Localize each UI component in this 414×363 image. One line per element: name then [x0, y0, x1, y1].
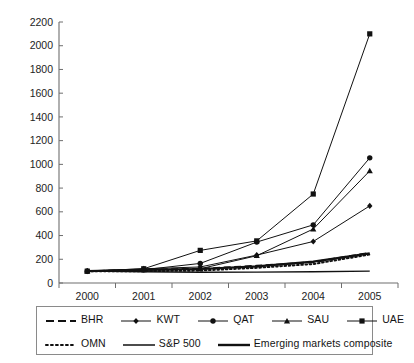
- legend-item-label: UAE: [382, 313, 404, 325]
- legend-item-label: OMN: [81, 337, 106, 349]
- y-axis-tick-label: 1000: [30, 158, 54, 170]
- legend-item-uae[interactable]: UAE: [345, 313, 404, 325]
- circle-marker: [198, 261, 203, 266]
- triangle-marker-line-swatch: [270, 315, 304, 327]
- square-marker: [311, 191, 316, 196]
- y-axis-tick-label: 1200: [30, 134, 54, 146]
- thin-solid-line-swatch: [122, 337, 156, 349]
- diamond-marker: [367, 203, 372, 209]
- legend-item-label: Emerging markets composite: [254, 337, 393, 349]
- y-axis-tick-label: 1400: [30, 111, 54, 123]
- y-axis-tick-label: 2000: [30, 39, 54, 51]
- dashed-line-swatch: [44, 315, 78, 327]
- series-line: [87, 171, 370, 271]
- legend-item-label: SAU: [307, 313, 329, 325]
- y-axis-tick-label: 1800: [30, 63, 54, 75]
- legend-item-emerging-markets-composite[interactable]: Emerging markets composite: [217, 337, 393, 349]
- x-axis-tick-label: 2003: [245, 290, 269, 302]
- diamond-marker: [311, 238, 316, 244]
- diamond-marker-line-swatch: [119, 315, 153, 327]
- legend-item-label: KWT: [156, 313, 180, 325]
- dashed-line-swatch: [44, 313, 78, 325]
- series-qat: [85, 155, 373, 274]
- x-axis-tick-label: 2004: [302, 290, 326, 302]
- legend-item-label: S&P 500: [159, 337, 201, 349]
- triangle-marker-line-swatch: [270, 313, 304, 325]
- square-marker: [198, 248, 203, 253]
- series-sau: [84, 168, 373, 274]
- series-layer: [84, 31, 373, 274]
- thin-solid-line-swatch: [122, 339, 156, 351]
- square-marker-line-swatch: [345, 315, 379, 327]
- legend-item-label: QAT: [233, 313, 254, 325]
- series-kwt: [85, 203, 373, 274]
- triangle-marker: [367, 168, 373, 174]
- thick-solid-line-swatch: [217, 339, 251, 351]
- diamond-marker-line-swatch: [119, 313, 153, 325]
- x-axis-tick-label: 2002: [189, 290, 213, 302]
- thick-solid-line-swatch: [217, 337, 251, 349]
- legend-item-sau[interactable]: SAU: [270, 313, 329, 325]
- y-axis: 0200400600800100012001400160018002000220…: [30, 16, 63, 289]
- legend-item-qat[interactable]: QAT: [196, 313, 254, 325]
- y-axis-tick-label: 2200: [30, 16, 54, 28]
- legend-item-label: BHR: [81, 313, 103, 325]
- circle-marker-line-swatch: [196, 313, 230, 325]
- circle-marker: [210, 318, 215, 323]
- legend-item-kwt[interactable]: KWT: [119, 313, 180, 325]
- dotted-line-swatch: [44, 339, 78, 351]
- square-marker: [254, 238, 259, 243]
- series-line: [87, 34, 370, 271]
- legend-item-omn[interactable]: OMN: [44, 337, 106, 349]
- y-axis-tick-label: 200: [35, 253, 53, 265]
- x-axis-tick-label: 2000: [76, 290, 100, 302]
- circle-marker: [367, 155, 372, 160]
- square-marker: [367, 31, 372, 36]
- y-axis-tick-label: 0: [47, 277, 53, 289]
- dotted-line-swatch: [44, 337, 78, 349]
- series-uae: [85, 31, 373, 273]
- legend-item-bhr[interactable]: BHR: [44, 313, 103, 325]
- y-axis-tick-label: 600: [35, 205, 53, 217]
- legend-row-primary: BHRKWTQATSAUUAE: [37, 307, 372, 331]
- x-axis: 200020012002200320042005: [59, 283, 398, 302]
- x-axis-tick-label: 2005: [358, 290, 382, 302]
- line-chart: 0200400600800100012001400160018002000220…: [0, 0, 414, 363]
- circle-marker-line-swatch: [196, 315, 230, 327]
- diamond-marker: [134, 318, 139, 324]
- square-marker-line-swatch: [345, 313, 379, 325]
- legend-row-secondary: OMNS&P 500Emerging markets composite: [37, 331, 372, 355]
- x-axis-tick-label: 2001: [132, 290, 156, 302]
- y-axis-tick-label: 800: [35, 182, 53, 194]
- legend: BHRKWTQATSAUUAE OMNS&P 500Emerging marke…: [36, 306, 373, 355]
- y-axis-tick-label: 400: [35, 229, 53, 241]
- legend-item-s-p-500[interactable]: S&P 500: [122, 337, 201, 349]
- square-marker: [360, 318, 365, 323]
- y-axis-tick-label: 1600: [30, 87, 54, 99]
